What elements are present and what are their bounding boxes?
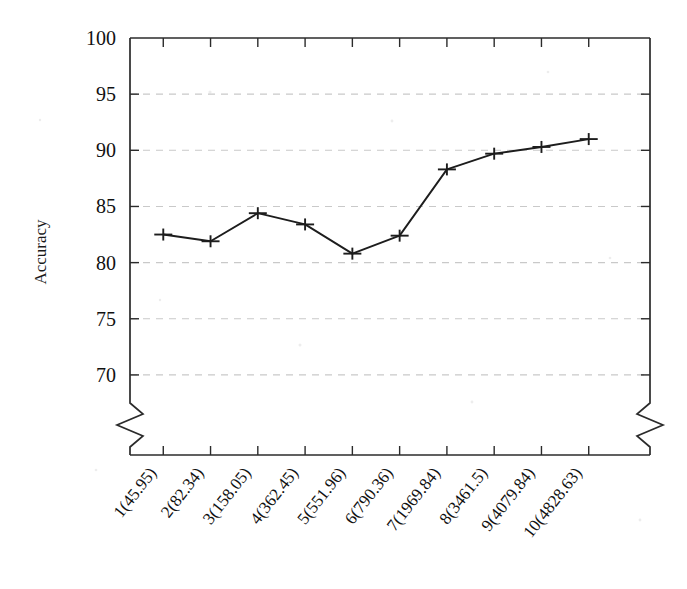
y-tick-label-70: 70 [96, 364, 116, 386]
accuracy-line-chart: 707580859095100 1(45.95)2(82.34)3(158.05… [0, 0, 687, 589]
y-axis-label: Accuracy [31, 219, 50, 285]
y-tick-label-80: 80 [96, 252, 116, 274]
chart-canvas: 707580859095100 1(45.95)2(82.34)3(158.05… [0, 0, 687, 589]
y-tick-label-95: 95 [96, 83, 116, 105]
y-tick-label-90: 90 [96, 139, 116, 161]
y-tick-label-75: 75 [96, 308, 116, 330]
y-tick-label-100: 100 [86, 27, 116, 49]
y-tick-label-85: 85 [96, 195, 116, 217]
